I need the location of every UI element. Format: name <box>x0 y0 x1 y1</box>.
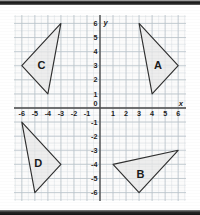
x-axis-label: x <box>178 99 184 108</box>
x-tick-label: -3 <box>58 109 64 118</box>
y-tick-label: -5 <box>91 174 97 183</box>
x-tick-label: 1 <box>111 109 115 118</box>
y-tick-label: 6 <box>93 19 97 28</box>
x-tick-label: -6 <box>19 109 25 118</box>
triangle-label-a: A <box>154 59 162 71</box>
y-axis-label: y <box>103 18 109 27</box>
coordinate-plane: -6-5-4-3-2-1123456654321-1-2-3-4-5-60 xy… <box>14 15 186 201</box>
y-tick-label: 3 <box>93 61 97 70</box>
x-tick-label: 4 <box>150 109 154 118</box>
x-tick-label: 2 <box>124 109 128 118</box>
triangle-label-c: C <box>37 59 45 71</box>
y-tick-label: -2 <box>91 132 97 141</box>
x-tick-label: 3 <box>137 109 141 118</box>
x-tick-label: -2 <box>71 109 77 118</box>
x-tick-label: 5 <box>163 109 167 118</box>
triangle-label-d: D <box>34 157 42 169</box>
x-tick-label: 6 <box>176 109 180 118</box>
y-tick-label: -3 <box>91 146 97 155</box>
y-tick-label: -1 <box>91 118 97 127</box>
y-tick-label: 5 <box>93 33 97 42</box>
y-tick-label: -6 <box>91 188 97 197</box>
scan-edge-top <box>0 0 200 5</box>
y-tick-label: 1 <box>93 90 97 99</box>
y-tick-label: 2 <box>93 75 97 84</box>
y-tick-label: 4 <box>93 47 97 56</box>
page-root: -6-5-4-3-2-1123456654321-1-2-3-4-5-60 xy… <box>0 0 200 215</box>
triangle-label-b: B <box>136 168 144 180</box>
x-tick-label: -5 <box>32 109 38 118</box>
scan-edge-bottom <box>0 210 200 215</box>
y-tick-label: -4 <box>91 160 97 169</box>
x-tick-label: -4 <box>45 109 51 118</box>
coordinate-graph-svg: -6-5-4-3-2-1123456654321-1-2-3-4-5-60 xy… <box>14 15 186 201</box>
origin-label: 0 <box>93 99 97 108</box>
x-tick-label: -1 <box>84 109 90 118</box>
